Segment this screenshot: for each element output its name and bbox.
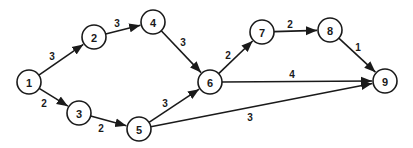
node-label: 4 <box>150 17 157 29</box>
node-label: 2 <box>91 32 97 44</box>
node-label: 5 <box>136 124 142 136</box>
node-6: 6 <box>198 70 222 94</box>
node-5: 5 <box>127 117 151 141</box>
edge-2-4 <box>106 25 141 34</box>
node-9: 9 <box>373 69 397 93</box>
edge-weight-4-6: 3 <box>180 37 186 48</box>
edge-weight-5-6: 3 <box>162 98 168 109</box>
nodes-group: 123456789 <box>17 10 397 141</box>
node-4: 4 <box>141 10 165 34</box>
edge-weight-5-9: 3 <box>247 112 253 123</box>
edge-weight-6-9: 4 <box>289 69 295 80</box>
edge-1-2 <box>39 44 83 75</box>
edge-weight-3-5: 2 <box>98 123 104 134</box>
node-label: 1 <box>26 77 32 89</box>
edge-6-9 <box>222 81 372 82</box>
node-label: 3 <box>76 108 82 120</box>
edge-weight-1-3: 2 <box>41 98 47 109</box>
node-label: 6 <box>207 77 213 89</box>
edge-5-9 <box>151 83 372 126</box>
network-diagram: 32323332421 123456789 <box>0 0 413 148</box>
edge-weight-6-7: 2 <box>225 50 231 61</box>
node-8: 8 <box>318 18 342 42</box>
node-2: 2 <box>82 25 106 49</box>
node-label: 7 <box>259 27 265 39</box>
edge-5-6 <box>149 89 199 122</box>
node-7: 7 <box>250 20 274 44</box>
edge-3-5 <box>91 116 127 126</box>
edge-weight-8-9: 1 <box>355 42 361 53</box>
edge-weight-7-8: 2 <box>287 19 293 30</box>
edge-6-7 <box>219 41 253 74</box>
node-1: 1 <box>17 70 41 94</box>
edge-weight-2-4: 3 <box>114 18 120 29</box>
node-label: 9 <box>382 76 388 88</box>
edge-weight-1-2: 3 <box>49 51 55 62</box>
node-3: 3 <box>67 101 91 125</box>
node-label: 8 <box>327 25 333 37</box>
edge-7-8 <box>274 30 317 31</box>
